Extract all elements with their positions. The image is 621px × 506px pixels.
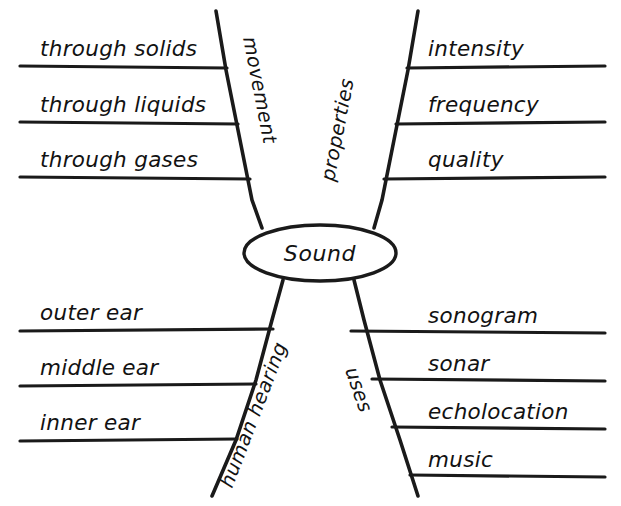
leaf-rule-outer-ear <box>20 329 273 331</box>
leaf-rule-intensity <box>407 66 605 68</box>
leaf-rule-sonar <box>372 379 605 381</box>
leaf-rule-middle-ear <box>20 384 256 386</box>
leaf-rule-frequency <box>396 122 605 124</box>
leaf-rule-inner-ear <box>20 439 237 441</box>
leaf-rule-through-gases <box>20 177 250 179</box>
leaf-label-inner-ear: inner ear <box>40 410 141 435</box>
leaf-label-through-solids: through solids <box>40 36 197 61</box>
leaf-label-quality: quality <box>428 147 504 172</box>
branch-human-hearing[interactable]: outer ear middle ear inner ear human hea… <box>20 280 292 496</box>
leaf-rule-sonogram <box>351 331 605 333</box>
center-label: Sound <box>284 241 357 266</box>
branch-label-movement: movement <box>238 35 281 147</box>
leaf-label-middle-ear: middle ear <box>40 355 159 380</box>
leaf-label-through-gases: through gases <box>40 147 198 172</box>
leaf-label-through-liquids: through liquids <box>40 92 206 117</box>
leaf-label-echolocation: echolocation <box>428 399 569 424</box>
leaf-label-sonogram: sonogram <box>428 303 538 328</box>
leaf-label-frequency: frequency <box>428 92 539 117</box>
leaf-rule-music <box>410 475 605 477</box>
branch-uses[interactable]: sonogram sonar echolocation music uses <box>340 280 605 496</box>
branch-label-uses: uses <box>340 364 377 415</box>
leaf-label-outer-ear: outer ear <box>40 300 143 325</box>
concept-map-canvas: through solids through liquids through g… <box>0 0 621 506</box>
leaf-rule-through-solids <box>20 66 227 68</box>
leaf-rule-quality <box>384 177 605 179</box>
branch-label-properties: properties <box>316 77 359 184</box>
branch-properties[interactable]: intensity frequency quality properties <box>316 11 605 228</box>
leaf-label-sonar: sonar <box>428 351 490 376</box>
leaf-label-intensity: intensity <box>428 36 524 61</box>
center-node-sound[interactable]: Sound <box>244 225 396 281</box>
branch-label-human-hearing: human hearing <box>215 339 292 491</box>
leaf-rule-through-liquids <box>20 122 238 124</box>
leaf-label-music: music <box>428 447 493 472</box>
branch-line-properties <box>374 11 418 228</box>
branch-movement[interactable]: through solids through liquids through g… <box>20 11 282 228</box>
sound-concept-map: through solids through liquids through g… <box>0 0 621 506</box>
leaf-rule-echolocation <box>392 427 605 429</box>
